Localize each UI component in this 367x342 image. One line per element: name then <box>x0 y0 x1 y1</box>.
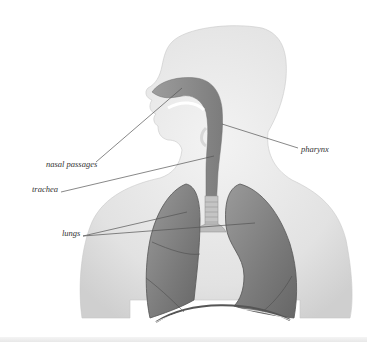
label-nasal-passages: nasal passages <box>46 160 97 169</box>
diagram-artwork <box>0 0 367 342</box>
label-trachea: trachea <box>32 185 58 194</box>
bottom-border <box>0 337 367 342</box>
respiratory-system-diagram: nasal passages pharynx trachea lungs <box>0 0 367 342</box>
label-lungs: lungs <box>62 229 80 238</box>
label-pharynx: pharynx <box>301 145 329 154</box>
